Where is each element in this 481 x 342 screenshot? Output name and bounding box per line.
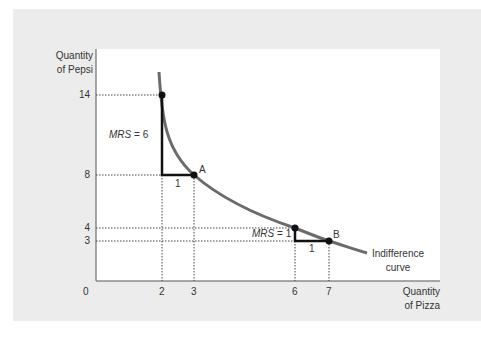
y-tick-8: 8 [70,169,90,181]
y-axis-title: Quantity of Pepsi [49,49,93,77]
mrs-1-label: MRS = 1 [252,227,291,241]
x-tick-7: 7 [326,286,332,298]
y-tick-14: 14 [70,89,90,101]
x-tick-0: 0 [83,286,89,298]
y-tick-4: 4 [70,222,90,234]
curve-label-line1: Indifference [369,247,427,261]
point-2-14 [159,92,166,99]
point-b [326,238,333,245]
x-tick-6: 6 [292,286,298,298]
x-axis-title-line2: of Pizza [380,299,440,313]
mrs-6-value: = 6 [131,129,148,140]
mrs-6-label: MRS = 6 [109,128,148,142]
mrs-6-prefix: MRS [109,129,131,140]
y-tick-3: 3 [70,235,90,247]
mrs-1-value: = 1 [274,228,291,239]
mrs-1-prefix: MRS [252,228,274,239]
x-axis-title-line1: Quantity [380,285,440,299]
point-a-label: A [199,163,206,177]
curve-label-line2: curve [369,261,427,275]
y-axis-title-line2: of Pepsi [49,63,93,77]
point-6-4 [292,225,299,232]
run-label-b: 1 [309,242,315,256]
point-a [191,172,198,179]
x-tick-3: 3 [191,286,197,298]
run-label-a: 1 [175,177,181,191]
x-axis-title: Quantity of Pizza [380,285,440,313]
indifference-curve [159,72,367,253]
curve-label: Indifference curve [369,247,427,275]
point-b-label: B [333,228,340,242]
x-tick-2: 2 [159,286,165,298]
y-axis-title-line1: Quantity [49,49,93,63]
